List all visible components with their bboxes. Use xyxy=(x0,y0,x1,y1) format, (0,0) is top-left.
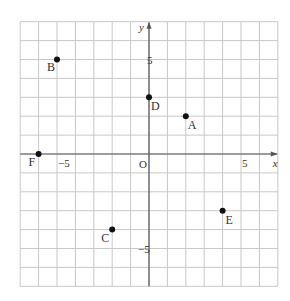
point-label: A xyxy=(188,118,197,132)
y-tick-label: 5 xyxy=(147,54,153,66)
point-label: D xyxy=(151,99,160,113)
y-tick-label: −5 xyxy=(138,243,150,255)
x-axis-label: x xyxy=(272,157,278,169)
coordinate-plane: xyO−555−5 ABCDEF xyxy=(0,0,290,301)
y-axis-label: y xyxy=(138,21,144,33)
x-axis-arrow-icon xyxy=(271,152,278,157)
point-marker-icon xyxy=(36,151,42,157)
x-tick-label: 5 xyxy=(242,157,248,169)
point-label: C xyxy=(101,231,109,245)
point-b: B xyxy=(47,57,60,74)
x-tick-label: −5 xyxy=(58,157,70,169)
point-label: B xyxy=(47,60,55,74)
origin-label: O xyxy=(139,158,147,170)
point-label: E xyxy=(226,213,233,227)
point-label: F xyxy=(29,155,36,169)
y-axis-arrow-icon xyxy=(147,22,152,29)
point-marker-icon xyxy=(109,227,115,233)
